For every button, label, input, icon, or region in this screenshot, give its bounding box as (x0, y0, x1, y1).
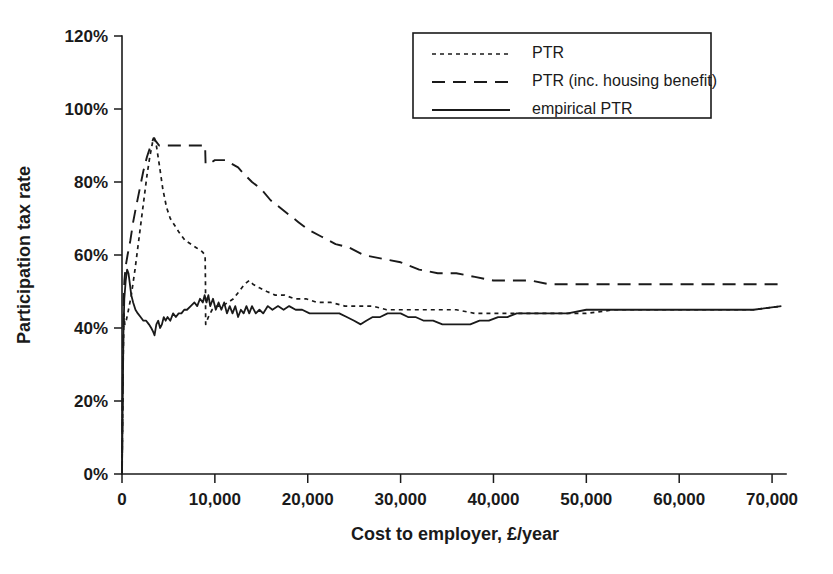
y-tick-label: 120% (65, 27, 108, 46)
y-tick-label: 20% (74, 392, 108, 411)
series-line-empirical-ptr (122, 270, 781, 474)
x-axis-ticks: 010,00020,00030,00040,00050,00060,00070,… (117, 474, 798, 509)
y-tick-label: 60% (74, 246, 108, 265)
y-tick-label: 100% (65, 100, 108, 119)
x-tick-label: 70,000 (746, 490, 798, 509)
x-tick-label: 40,000 (467, 490, 519, 509)
y-axis-title: Participation tax rate (14, 166, 34, 344)
participation-tax-rate-chart: 0%20%40%60%80%100%120% 010,00020,00030,0… (0, 0, 833, 574)
chart-figure: 0%20%40%60%80%100%120% 010,00020,00030,0… (0, 0, 833, 574)
x-tick-label: 0 (117, 490, 126, 509)
x-tick-label: 10,000 (189, 490, 241, 509)
legend-label: empirical PTR (532, 100, 632, 117)
chart-legend: PTRPTR (inc. housing benefit)empirical P… (413, 33, 717, 118)
x-axis-title: Cost to employer, £/year (351, 524, 559, 544)
x-tick-label: 50,000 (560, 490, 612, 509)
y-tick-label: 80% (74, 173, 108, 192)
y-tick-label: 40% (74, 319, 108, 338)
x-tick-label: 30,000 (375, 490, 427, 509)
y-tick-label: 0% (83, 465, 108, 484)
x-tick-label: 60,000 (653, 490, 705, 509)
legend-label: PTR (532, 44, 564, 61)
legend-label: PTR (inc. housing benefit) (532, 72, 717, 89)
x-tick-label: 20,000 (282, 490, 334, 509)
y-axis-ticks: 0%20%40%60%80%100%120% (65, 27, 122, 484)
data-series-group (122, 138, 781, 474)
